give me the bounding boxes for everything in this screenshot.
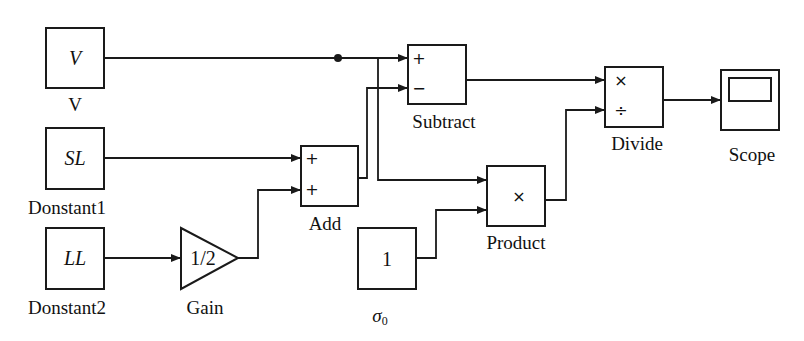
block-scope[interactable]: Scope — [721, 70, 779, 165]
block-v-label: V — [68, 94, 82, 115]
block-sl-label: Donstant1 — [28, 197, 106, 218]
block-product[interactable]: × Product — [486, 166, 546, 253]
block-gain-content: 1/2 — [190, 247, 216, 269]
block-sigma0-constant[interactable]: 1 σ0 — [358, 228, 416, 328]
subtract-sign-minus: − — [412, 79, 425, 98]
block-product-label: Product — [486, 232, 546, 253]
block-sl-content: SL — [64, 147, 85, 169]
block-add[interactable]: + + Add — [301, 146, 358, 234]
add-sign-1: + — [305, 149, 318, 168]
block-ll-constant[interactable]: LL Donstant2 — [28, 228, 106, 318]
product-times-icon: × — [512, 187, 525, 206]
branch-point — [334, 54, 342, 62]
wire-product-to-divide[interactable] — [545, 110, 604, 200]
subtract-sign-plus: + — [412, 49, 425, 68]
block-ll-content: LL — [63, 247, 86, 269]
divide-times-icon: × — [614, 71, 627, 90]
block-gain[interactable]: 1/2 Gain — [181, 228, 238, 318]
block-sl-constant[interactable]: SL Donstant1 — [28, 128, 106, 218]
divide-obelus-icon: ÷ — [614, 101, 627, 120]
block-subtract[interactable]: + − Subtract — [408, 45, 476, 132]
block-diagram-canvas: V V SL Donstant1 LL Donstant2 1/2 Gain +… — [0, 0, 804, 341]
block-divide-label: Divide — [611, 133, 663, 154]
block-subtract-label: Subtract — [412, 111, 476, 132]
block-divide[interactable]: × ÷ Divide — [605, 67, 663, 154]
wire-gain-to-add[interactable] — [238, 190, 300, 258]
block-sigma0-label: σ0 — [372, 305, 387, 328]
block-v-constant[interactable]: V V — [46, 28, 104, 115]
add-sign-2: + — [305, 180, 318, 199]
block-ll-label: Donstant2 — [28, 297, 106, 318]
block-add-label: Add — [309, 213, 342, 234]
block-scope-label: Scope — [729, 144, 775, 165]
scope-screen-icon — [729, 78, 771, 101]
block-gain-label: Gain — [187, 297, 224, 318]
wire-sigma-to-product[interactable] — [416, 210, 486, 258]
wire-add-to-subtract[interactable] — [358, 88, 407, 178]
block-sigma0-content: 1 — [382, 248, 392, 270]
